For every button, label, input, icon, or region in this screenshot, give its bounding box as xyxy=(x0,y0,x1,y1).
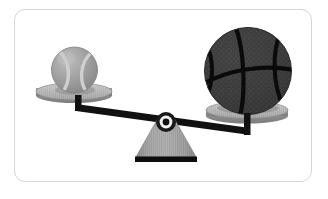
pivot xyxy=(156,112,176,132)
tennis-ball-highlight xyxy=(57,51,75,65)
fulcrum-base xyxy=(135,157,197,163)
basketball xyxy=(203,28,294,117)
illustration-canvas: Balance scale comparing a tennis ball an… xyxy=(0,0,328,199)
balance-scale-illustration: Balance scale comparing a tennis ball an… xyxy=(0,0,328,199)
pivot-center xyxy=(163,119,170,126)
tennis-ball xyxy=(52,47,98,94)
